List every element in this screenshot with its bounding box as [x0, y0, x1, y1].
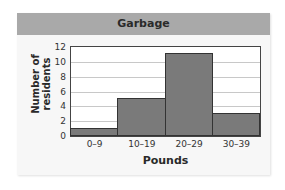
y-axis-label-line1: Number of [30, 48, 41, 120]
x-tick-label: 30–39 [212, 139, 260, 149]
plot-area [70, 46, 261, 137]
y-axis-label-line2: residents [41, 48, 52, 120]
y-tick-label: 6 [52, 87, 66, 97]
bar-10–19 [117, 98, 165, 136]
y-tick-label: 8 [52, 72, 66, 82]
x-tick-label: 20–29 [165, 139, 213, 149]
chart-title: Garbage [17, 13, 270, 35]
y-tick-label: 0 [52, 131, 66, 141]
bar-30–39 [212, 113, 260, 136]
y-axis-label: Number of residents [30, 48, 52, 120]
x-axis-label: Pounds [70, 154, 261, 167]
y-tick-label: 2 [52, 116, 66, 126]
y-tick-label: 12 [52, 42, 66, 52]
y-tick-label: 4 [52, 101, 66, 111]
x-tick-label: 0–9 [71, 139, 119, 149]
x-tick-label: 10–19 [118, 139, 166, 149]
bar-20–29 [165, 53, 213, 136]
bar-0–9 [70, 128, 118, 136]
chart-panel: Garbage Number of residents 024681012 0–… [17, 13, 270, 175]
y-tick-label: 10 [52, 57, 66, 67]
